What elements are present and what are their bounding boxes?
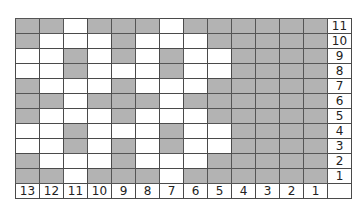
- blank-cell: [40, 154, 64, 169]
- blank-cell: [136, 79, 160, 94]
- blank-cell: [208, 64, 232, 79]
- shaded-cell: [232, 154, 256, 169]
- row-label: 5: [328, 109, 352, 124]
- blank-cell: [184, 124, 208, 139]
- shaded-cell: [184, 94, 208, 109]
- shaded-cell: [256, 169, 280, 184]
- column-label: 6: [184, 184, 208, 199]
- blank-cell: [184, 154, 208, 169]
- blank-cell: [64, 34, 88, 49]
- shaded-cell: [304, 49, 328, 64]
- shaded-cell: [280, 154, 304, 169]
- row-label: 8: [328, 64, 352, 79]
- blank-cell: [64, 94, 88, 109]
- grid-row: 3: [16, 139, 352, 154]
- blank-cell: [136, 109, 160, 124]
- shaded-cell: [16, 79, 40, 94]
- grid-row: 5: [16, 109, 352, 124]
- blank-cell: [40, 49, 64, 64]
- shaded-cell: [280, 34, 304, 49]
- blank-cell: [208, 124, 232, 139]
- shaded-cell: [304, 94, 328, 109]
- shaded-cell: [184, 169, 208, 184]
- column-label: 7: [160, 184, 184, 199]
- row-label: 11: [328, 19, 352, 34]
- blank-cell: [136, 124, 160, 139]
- row-label: 10: [328, 34, 352, 49]
- shaded-cell: [280, 94, 304, 109]
- shaded-cell: [136, 19, 160, 34]
- shaded-cell: [232, 169, 256, 184]
- shaded-cell: [232, 49, 256, 64]
- shaded-cell: [232, 94, 256, 109]
- shaded-cell: [232, 139, 256, 154]
- shaded-cell: [16, 34, 40, 49]
- blank-cell: [40, 124, 64, 139]
- shaded-cell: [304, 109, 328, 124]
- column-label: 8: [136, 184, 160, 199]
- shaded-cell: [40, 94, 64, 109]
- row-label: 4: [328, 124, 352, 139]
- shaded-cell: [112, 94, 136, 109]
- shaded-cell: [208, 109, 232, 124]
- grid-row: 7: [16, 79, 352, 94]
- shaded-cell: [136, 169, 160, 184]
- column-label: 9: [112, 184, 136, 199]
- shaded-cell: [208, 79, 232, 94]
- grid-row: 8: [16, 64, 352, 79]
- shaded-cell: [16, 154, 40, 169]
- shaded-cell: [280, 64, 304, 79]
- grid-row: 1: [16, 169, 352, 184]
- row-label: 7: [328, 79, 352, 94]
- blank-cell: [112, 64, 136, 79]
- blank-cell: [16, 49, 40, 64]
- blank-cell: [160, 169, 184, 184]
- blank-cell: [136, 154, 160, 169]
- blank-cell: [40, 64, 64, 79]
- blank-cell: [16, 124, 40, 139]
- shaded-cell: [112, 154, 136, 169]
- shaded-cell: [208, 94, 232, 109]
- shaded-cell: [112, 79, 136, 94]
- blank-cell: [40, 34, 64, 49]
- shaded-cell: [88, 169, 112, 184]
- column-label: 5: [208, 184, 232, 199]
- blank-cell: [184, 139, 208, 154]
- shaded-cell: [256, 34, 280, 49]
- shaded-cell: [184, 19, 208, 34]
- blank-cell: [64, 79, 88, 94]
- shaded-cell: [256, 124, 280, 139]
- shaded-cell: [16, 94, 40, 109]
- shaded-cell: [256, 154, 280, 169]
- blank-cell: [136, 139, 160, 154]
- grid-row: 10: [16, 34, 352, 49]
- shaded-cell: [16, 169, 40, 184]
- shaded-cell: [304, 124, 328, 139]
- blank-cell: [64, 169, 88, 184]
- shaded-cell: [208, 169, 232, 184]
- blank-cell: [88, 34, 112, 49]
- column-label: 12: [40, 184, 64, 199]
- column-label: 2: [280, 184, 304, 199]
- blank-cell: [160, 109, 184, 124]
- shaded-cell: [160, 64, 184, 79]
- blank-cell: [88, 49, 112, 64]
- shaded-cell: [16, 109, 40, 124]
- shaded-cell: [160, 49, 184, 64]
- row-label: 6: [328, 94, 352, 109]
- shaded-cell: [280, 109, 304, 124]
- shaded-cell: [208, 154, 232, 169]
- blank-cell: [184, 64, 208, 79]
- blank-cell: [184, 109, 208, 124]
- knitting-chart-grid: 111098765432113121110987654321: [15, 18, 352, 199]
- shaded-cell: [280, 79, 304, 94]
- shaded-cell: [304, 64, 328, 79]
- blank-cell: [136, 34, 160, 49]
- row-label: 3: [328, 139, 352, 154]
- blank-cell: [160, 19, 184, 34]
- blank-cell: [88, 154, 112, 169]
- shaded-cell: [64, 139, 88, 154]
- shaded-cell: [304, 79, 328, 94]
- blank-cell: [208, 139, 232, 154]
- grid-row: 9: [16, 49, 352, 64]
